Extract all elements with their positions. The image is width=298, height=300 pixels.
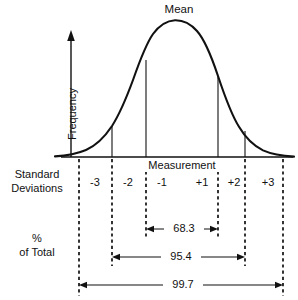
frequency-axis-label: Frequency bbox=[66, 88, 78, 140]
tick-label-minus-1: -1 bbox=[150, 176, 174, 189]
mean-label: Mean bbox=[154, 3, 204, 16]
percent-of-total-label-line1: % bbox=[4, 231, 70, 245]
standard-deviations-label-line1: Standard bbox=[4, 167, 70, 181]
tick-label-minus-3: -3 bbox=[83, 176, 107, 189]
y-axis-arrowhead bbox=[67, 30, 75, 41]
span-label-68: 68.3 bbox=[164, 222, 204, 235]
normal-distribution-figure: Mean Frequency Measurement Standard Devi… bbox=[0, 0, 298, 300]
bell-curve bbox=[55, 20, 294, 156]
tick-label-plus-1: +1 bbox=[190, 176, 214, 189]
span-label-95: 95.4 bbox=[161, 250, 201, 263]
tick-label-plus-3: +3 bbox=[256, 176, 280, 189]
span-label-99: 99.7 bbox=[163, 278, 203, 291]
standard-deviations-label-line2: Deviations bbox=[4, 181, 70, 195]
measurement-axis-label: Measurement bbox=[141, 159, 223, 172]
percent-of-total-label-line2: of Total bbox=[4, 245, 70, 259]
tick-label-minus-2: -2 bbox=[116, 176, 140, 189]
tick-label-plus-2: +2 bbox=[222, 176, 246, 189]
